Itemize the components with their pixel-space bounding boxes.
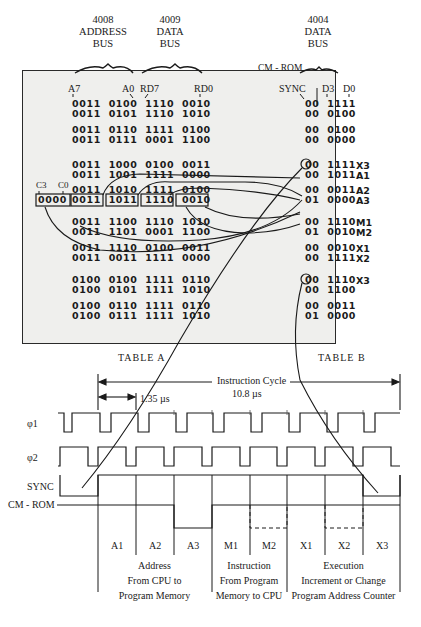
- box-nibble-1: [71, 194, 103, 206]
- phi2-waveform: [58, 447, 400, 466]
- diagram-graphics: [0, 0, 421, 627]
- box-c3-c0: [36, 194, 70, 206]
- sync-circles: [301, 159, 311, 284]
- sync-waveform: [60, 475, 400, 496]
- dashed-pulses: [250, 505, 363, 528]
- box-nibble-3: [141, 194, 173, 206]
- box-nibble-4: [176, 194, 208, 206]
- sync-circle-bottom: [301, 274, 311, 284]
- instruction-cycle-arrow: [98, 374, 400, 410]
- column-tick-marks: [39, 88, 349, 194]
- phase-dividers: [98, 475, 400, 592]
- phi1-waveform: [58, 413, 400, 432]
- box-nibble-2: [106, 194, 138, 206]
- sync-circle-top: [301, 159, 311, 169]
- highlight-boxes: [36, 194, 208, 206]
- cm-rom-waveform: [57, 505, 400, 528]
- timing-curves: [82, 168, 378, 493]
- bus-braces: [75, 64, 338, 73]
